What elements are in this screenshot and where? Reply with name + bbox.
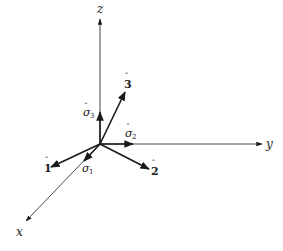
vector-e3	[100, 92, 125, 144]
z-axis-label: z	[96, 2, 104, 16]
svg-text:ˆ: ˆ	[152, 159, 156, 168]
label-e1: 1 ˆ	[44, 156, 52, 175]
svg-text:2: 2	[132, 133, 136, 141]
svg-text:ˆ: ˆ	[45, 156, 49, 165]
svg-text:3: 3	[90, 112, 94, 120]
svg-text:ˆ: ˆ	[126, 123, 130, 132]
label-sigma1: σ 1 ˆ	[82, 158, 93, 176]
label-e3: 3 ˆ	[124, 72, 132, 91]
coordinate-diagram: z y x 3 ˆ σ 3 ˆ σ 2 ˆ 2 ˆ 1 ˆ	[0, 0, 283, 251]
label-sigma3: σ 3 ˆ	[83, 102, 94, 120]
vector-e1	[51, 144, 100, 167]
svg-text:ˆ: ˆ	[83, 158, 87, 167]
svg-text:ˆ: ˆ	[84, 102, 88, 111]
x-axis-label: x	[16, 225, 23, 239]
diagram-canvas: z y x 3 ˆ σ 3 ˆ σ 2 ˆ 2 ˆ 1 ˆ	[0, 0, 283, 251]
vector-e2	[100, 144, 149, 169]
y-axis-label: y	[265, 137, 273, 151]
label-sigma2: σ 2 ˆ	[125, 123, 136, 141]
label-e2: 2 ˆ	[151, 159, 159, 178]
svg-text:1: 1	[89, 168, 93, 176]
svg-text:ˆ: ˆ	[125, 72, 129, 81]
